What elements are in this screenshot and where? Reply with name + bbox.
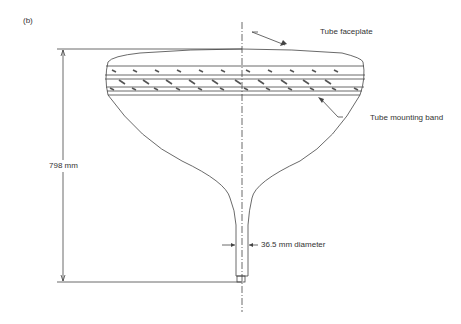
faceplate-label: Tube faceplate xyxy=(320,28,373,36)
faceplate-leader xyxy=(252,32,285,45)
band-leader xyxy=(320,98,343,117)
mounting-band-label: Tube mounting band xyxy=(370,114,443,122)
funnel-left xyxy=(108,95,236,276)
neck-diameter-label: 36.5 mm diameter xyxy=(261,241,325,249)
height-label: 798 mm xyxy=(49,162,78,170)
panel-label: (b) xyxy=(23,17,33,25)
tube-faceplate xyxy=(108,49,363,62)
